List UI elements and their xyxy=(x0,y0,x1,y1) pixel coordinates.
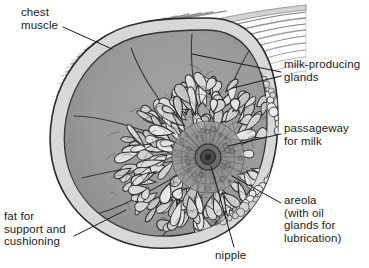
label-milk-producing-glands: milk-producing glands xyxy=(284,58,360,83)
label-fat: fat for support and cushioning xyxy=(4,210,66,248)
label-chest-muscle: chest muscle xyxy=(21,6,58,31)
label-areola: areola (with oil glands for lubrication) xyxy=(284,194,341,244)
nipple xyxy=(195,144,221,170)
label-passageway-for-milk: passageway for milk xyxy=(284,122,349,147)
label-nipple: nipple xyxy=(215,249,246,262)
breast-anatomy-diagram: chest muscle milk-producing glands passa… xyxy=(0,0,369,268)
